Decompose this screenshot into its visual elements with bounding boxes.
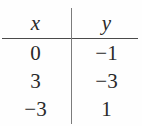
table-cell-x-row3: −3 — [0, 99, 71, 120]
table-cell-x-row2: 3 — [0, 71, 71, 92]
table-cell-y-row1: −1 — [71, 43, 142, 64]
table-cell-x-row1: 0 — [0, 43, 71, 64]
table-cell-y-row2: −3 — [71, 71, 142, 92]
xy-value-table: x y 0 −1 3 −3 −3 1 — [0, 0, 142, 126]
column-header-y: y — [71, 13, 142, 34]
table-grid: x y 0 −1 3 −3 −3 1 — [0, 0, 142, 126]
table-cell-y-row3: 1 — [71, 99, 142, 120]
column-header-x: x — [0, 13, 71, 34]
